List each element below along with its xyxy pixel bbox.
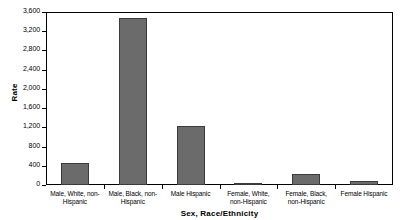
bar-slot [104, 12, 162, 185]
x-axis-title: Sex, Race/Ethnicity [46, 209, 393, 218]
x-axis-category-label: Male, White, non-Hispanic [46, 190, 104, 206]
x-axis-tick-mark [277, 185, 278, 189]
bar[interactable] [292, 174, 320, 185]
y-axis-ticks: 04008001,2001,6002,0002,4002,8003,2003,6… [0, 12, 46, 185]
x-axis-tick-mark [162, 185, 163, 189]
bar-slot [219, 12, 277, 185]
y-axis-tick-label: 2,400 [23, 65, 40, 72]
bar-slot [46, 12, 104, 185]
y-axis-tick-label: 2,000 [23, 84, 40, 91]
y-axis-tick-label: 3,600 [23, 7, 40, 14]
bar-slot [335, 12, 393, 185]
x-axis-labels: Male, White, non-HispanicMale, Black, no… [46, 190, 393, 206]
bar-slot [162, 12, 220, 185]
y-axis-tick-label: 0 [36, 180, 40, 187]
x-axis-category-label: Female Hispanic [335, 190, 393, 206]
y-axis-tick-label: 1,200 [23, 122, 40, 129]
y-axis-tick-label: 3,200 [23, 26, 40, 33]
bar[interactable] [119, 18, 147, 185]
x-axis-category-label: Female, Black, non-Hispanic [277, 190, 335, 206]
x-axis-category-label: Female, White, non-Hispanic [219, 190, 277, 206]
x-axis-category-label: Male Hispanic [162, 190, 220, 206]
x-axis-category-label: Male, Black, non-Hispanic [104, 190, 162, 206]
x-axis-tick-mark [335, 185, 336, 189]
bar[interactable] [177, 126, 205, 185]
x-axis-ticks [46, 185, 393, 189]
bar-slot [277, 12, 335, 185]
bar-chart: Rate 04008001,2001,6002,0002,4002,8003,2… [0, 0, 400, 220]
y-axis-tick-label: 2,800 [23, 45, 40, 52]
y-axis-tick-label: 400 [29, 161, 40, 168]
bars-layer [46, 12, 393, 185]
bar[interactable] [61, 163, 89, 185]
x-axis-tick-mark [220, 185, 221, 189]
x-axis-tick-mark [104, 185, 105, 189]
y-axis-tick-label: 1,600 [23, 103, 40, 110]
y-axis-tick-label: 800 [29, 142, 40, 149]
